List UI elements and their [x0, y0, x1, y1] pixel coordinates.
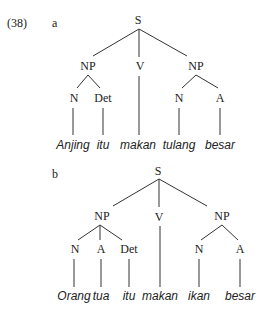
category-node: A: [97, 242, 106, 256]
tree-b-edges: [74, 179, 240, 287]
tree-branch: [77, 75, 88, 88]
category-node: N: [175, 91, 184, 105]
tree-a-edges: [73, 29, 220, 135]
category-node: Det: [94, 91, 112, 105]
terminal-word: Anjing: [55, 138, 90, 152]
category-node: N: [71, 242, 80, 256]
tree-branch: [88, 75, 100, 88]
terminal-word: ikan: [188, 289, 210, 303]
category-node: A: [216, 91, 225, 105]
category-node: V: [136, 59, 145, 73]
tree-branch: [93, 29, 139, 56]
terminal-word: makan: [120, 138, 156, 152]
tree-branch: [222, 225, 238, 240]
tree-branch: [201, 225, 222, 240]
terminal-word: makan: [142, 289, 178, 303]
terminal-word: itu: [123, 289, 136, 303]
terminal-word: Orang: [57, 289, 91, 303]
category-node: NP: [214, 209, 230, 223]
tree-branch: [182, 75, 196, 88]
category-node: NP: [80, 59, 96, 73]
category-node: S: [135, 13, 142, 27]
category-node: N: [70, 91, 79, 105]
category-node: N: [195, 242, 204, 256]
category-node: A: [236, 242, 245, 256]
tree-branch: [159, 179, 207, 206]
category-node: Det: [120, 242, 138, 256]
tree-branch: [139, 29, 187, 56]
category-node: NP: [188, 59, 204, 73]
terminal-word: tua: [93, 289, 110, 303]
syntax-tree-diagram: (38) a SNPVNPNDetNAAnjingitumakantulangb…: [0, 0, 265, 312]
terminal-word: itu: [97, 138, 110, 152]
terminal-word: besar: [205, 138, 236, 152]
terminal-word: besar: [225, 289, 256, 303]
category-node: S: [155, 164, 162, 178]
tree-branch: [113, 179, 159, 206]
category-node: NP: [94, 209, 110, 223]
tree-a-label: a: [52, 16, 58, 30]
tree-branch: [100, 225, 122, 240]
category-node: V: [155, 210, 164, 224]
tree-a: a SNPVNPNDetNAAnjingitumakantulangbesar: [52, 13, 236, 152]
tree-branch: [78, 225, 100, 240]
terminal-word: tulang: [163, 138, 196, 152]
tree-b: b SNPVNPNADetNAOrangtuaitumakanikanbesar: [52, 164, 256, 303]
example-number: (38): [7, 16, 27, 30]
tree-b-label: b: [52, 167, 58, 181]
tree-branch: [196, 75, 218, 88]
